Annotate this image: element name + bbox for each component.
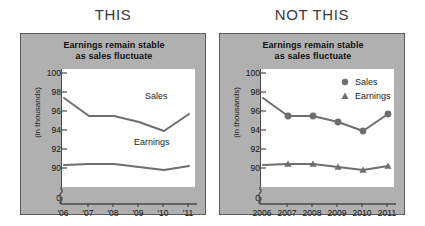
x-tick-2009: 2009 <box>324 208 350 218</box>
x-tick-2008: 2008 <box>299 208 325 218</box>
earnings-line <box>64 164 189 170</box>
x-tick-2007: 2007 <box>274 208 300 218</box>
y-tick-100: 100 <box>47 69 61 77</box>
x-tick-2006: 2006 <box>249 208 275 218</box>
x-axis-not-this: 2006 2007 2008 2009 2010 2011 <box>260 194 394 220</box>
x-tick-07: '07 <box>78 208 98 218</box>
earnings-line <box>263 164 388 170</box>
chart-title-line2: as sales fluctuate <box>29 51 199 62</box>
legend-label-earnings: Earnings <box>355 90 391 102</box>
series-direct-label-earnings: Earnings <box>134 137 170 147</box>
x-tick-2011: 2011 <box>374 208 400 218</box>
plot-area-this: Sales Earnings <box>61 69 195 187</box>
x-tick-06: '06 <box>53 208 73 218</box>
y-tick-98: 98 <box>251 88 260 96</box>
y-tick-96: 96 <box>251 107 260 115</box>
plot-area-not-this: Sales Earnings <box>260 69 394 187</box>
y-tick-marks-icon <box>62 73 67 168</box>
comparison-figure: THIS Earnings remain stable as sales flu… <box>0 0 425 226</box>
y-tick-94: 94 <box>251 126 260 134</box>
y-tick-92: 92 <box>52 145 61 153</box>
chart-title-line2: as sales fluctuate <box>228 51 398 62</box>
x-tick-labels-not-this: 2006 2007 2008 2009 2010 2011 <box>260 208 394 222</box>
chart-box-not-this: Earnings remain stable as sales fluctuat… <box>219 33 405 215</box>
y-tick-96: 96 <box>52 107 61 115</box>
x-tick-10: '10 <box>153 208 173 218</box>
panel-this: THIS Earnings remain stable as sales flu… <box>20 0 206 216</box>
panel-heading-not-this: NOT THIS <box>219 6 405 23</box>
chart-title-not-this: Earnings remain stable as sales fluctuat… <box>228 40 398 62</box>
series-lines-this <box>62 69 196 187</box>
series-direct-label-sales: Sales <box>145 91 168 101</box>
panel-not-this: NOT THIS Earnings remain stable as sales… <box>219 0 405 216</box>
chart-title-line1: Earnings remain stable <box>29 40 199 51</box>
panel-heading-this: THIS <box>20 6 206 23</box>
legend-label-sales: Sales <box>355 76 378 88</box>
earnings-markers-triangle-icon <box>284 161 391 173</box>
sales-line <box>64 98 189 131</box>
y-tick-94: 94 <box>52 126 61 134</box>
y-tick-98: 98 <box>52 88 61 96</box>
x-tick-08: '08 <box>103 208 123 218</box>
y-tick-90: 90 <box>52 164 61 172</box>
legend-item-sales: Sales <box>339 76 391 88</box>
legend-triangle-icon <box>339 90 351 102</box>
legend: Sales Earnings <box>339 76 391 104</box>
chart-title-line1: Earnings remain stable <box>228 40 398 51</box>
x-tick-2010: 2010 <box>349 208 375 218</box>
legend-item-earnings: Earnings <box>339 90 391 102</box>
y-tick-marks-icon <box>261 73 266 168</box>
x-tick-11: '11 <box>178 208 198 218</box>
x-tick-09: '09 <box>128 208 148 218</box>
legend-circle-icon <box>339 76 351 88</box>
chart-box-this: Earnings remain stable as sales fluctuat… <box>20 33 206 215</box>
y-tick-100: 100 <box>246 69 260 77</box>
y-tick-92: 92 <box>251 145 260 153</box>
x-axis-this: '06 '07 '08 '09 '10 '11 <box>61 194 195 220</box>
y-tick-90: 90 <box>251 164 260 172</box>
x-tick-labels-this: '06 '07 '08 '09 '10 '11 <box>61 208 195 222</box>
chart-title-this: Earnings remain stable as sales fluctuat… <box>29 40 199 62</box>
